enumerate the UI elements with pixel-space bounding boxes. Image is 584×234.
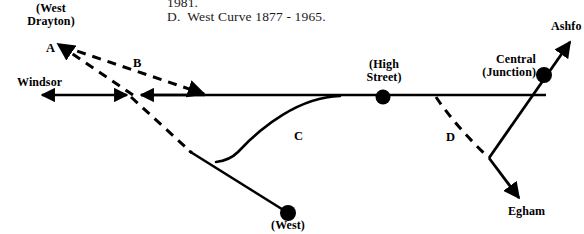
label-curve-c: C: [294, 130, 303, 143]
diagram-canvas: [0, 0, 584, 234]
label-curve-b: B: [133, 57, 141, 70]
west-branch: [131, 97, 285, 211]
station-dot-high-street: [376, 90, 391, 105]
label-central-junction: Central (Junction): [442, 53, 536, 78]
label-high-street: (High Street): [347, 58, 421, 83]
west-branch-dashed-part: [131, 97, 192, 153]
egham-line: [489, 158, 519, 198]
label-windsor: Windsor: [17, 76, 62, 89]
label-west: (West): [258, 219, 318, 232]
caption-line-2: D. West Curve 1877 - 1965.: [167, 10, 326, 24]
curve-d-path: [436, 97, 488, 157]
label-curve-d: D: [446, 131, 455, 144]
label-egham: Egham: [508, 205, 545, 218]
label-curve-a: A: [46, 42, 55, 55]
curve-a-path: [58, 44, 133, 95]
curve-a-dashed-line: [58, 44, 133, 95]
west-branch-solid-part: [189, 151, 285, 211]
egham-line-segment: [489, 158, 519, 198]
label-ashford: Ashfo: [551, 20, 582, 33]
curve-c-line: [216, 96, 340, 162]
curve-c-path: [216, 96, 340, 162]
label-west-drayton: (West Drayton): [6, 2, 96, 27]
curve-d-dashed-line: [436, 97, 488, 157]
station-dot-central-junction: [536, 67, 552, 83]
railway-diagram-figure: 1981. D. West Curve 1877 - 1965. (West D…: [0, 0, 584, 234]
